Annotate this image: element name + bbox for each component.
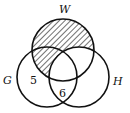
value-g-and-h: 6 bbox=[59, 87, 66, 100]
label-w: W bbox=[59, 3, 72, 16]
venn-diagram: W G H 5 6 bbox=[0, 0, 130, 113]
label-g: G bbox=[3, 74, 12, 87]
label-h: H bbox=[112, 75, 123, 88]
value-g-only: 5 bbox=[30, 74, 37, 87]
